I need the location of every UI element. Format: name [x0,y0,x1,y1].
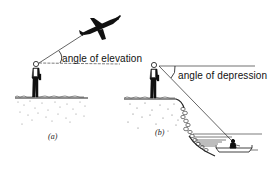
ground-a [15,96,88,125]
diagram-canvas [0,0,277,177]
aeroplane-icon [79,15,121,40]
observer-b [150,62,159,98]
cliff [124,97,215,156]
label-angle-of-elevation: angle of elevation [62,53,142,64]
angle-arc-depression [171,66,175,78]
label-angle-of-depression: angle of depression [178,70,267,81]
panel-a [15,15,121,125]
boat-icon [216,139,252,152]
observer-a [32,61,41,97]
caption-a: (a) [48,132,57,141]
caption-b: (b) [155,128,164,137]
